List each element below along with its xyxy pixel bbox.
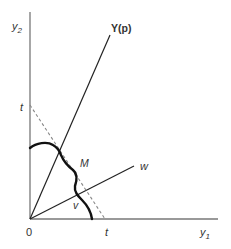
origin-label: 0	[26, 226, 32, 238]
price-ray-label: Y(p)	[111, 22, 131, 34]
point-v-label: v	[73, 199, 79, 211]
budget-y-intercept-label: t	[20, 101, 24, 113]
point-m-label: M	[80, 157, 89, 169]
price-ray-line	[30, 35, 110, 219]
y2-axis-label: y2	[11, 20, 23, 35]
production-diagram: y2 Y(p) t M w v 0 t y1	[0, 0, 231, 249]
budget-line-dashed	[30, 105, 105, 219]
w-ray-line	[30, 166, 134, 219]
frontier-curve	[30, 143, 92, 219]
budget-x-intercept-label: t	[105, 226, 109, 238]
y1-axis-label: y1	[199, 226, 210, 241]
diagram-container: y2 Y(p) t M w v 0 t y1	[0, 0, 231, 249]
w-ray-label: w	[140, 160, 149, 172]
